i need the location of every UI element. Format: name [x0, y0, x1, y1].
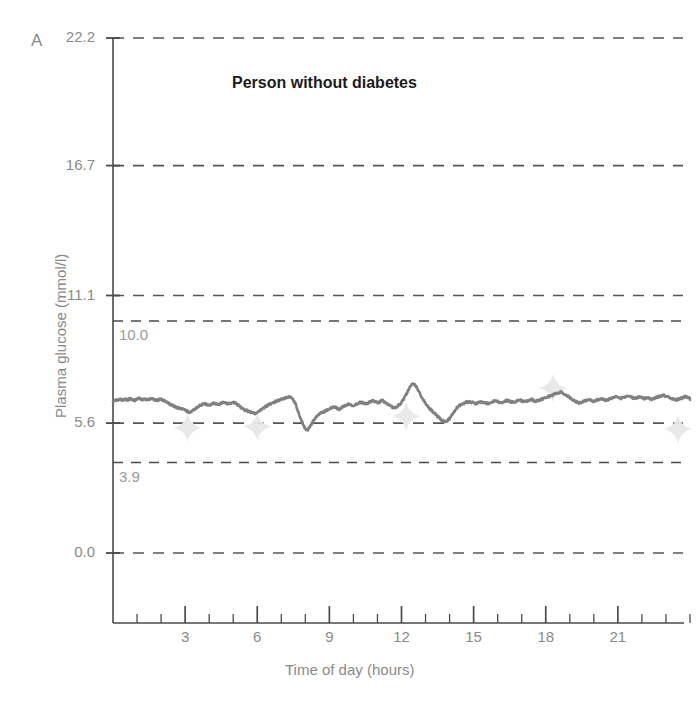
event-marker-star: [174, 414, 202, 442]
x-tick-label: 6: [237, 628, 277, 645]
x-axis-title: Time of day (hours): [285, 661, 415, 678]
reference-line-label: 3.9: [119, 468, 140, 485]
x-tick-marks-group: [137, 606, 690, 623]
event-markers-group: [174, 374, 692, 443]
x-tick-label: 21: [598, 628, 638, 645]
gridlines-group: [113, 38, 683, 553]
x-tick-label: 9: [309, 628, 349, 645]
event-marker-star: [664, 415, 692, 443]
x-tick-label: 15: [454, 628, 494, 645]
plot-canvas: [0, 0, 697, 717]
y-tick-label: 0.0: [35, 543, 95, 560]
x-tick-label: 12: [382, 628, 422, 645]
y-tick-label: 16.7: [35, 156, 95, 173]
event-marker-star: [243, 413, 271, 441]
x-tick-label: 3: [165, 628, 205, 645]
y-tick-label: 22.2: [35, 28, 95, 45]
y-tick-label: 11.1: [35, 286, 95, 303]
x-tick-label: 18: [526, 628, 566, 645]
y-tick-label: 5.6: [35, 413, 95, 430]
y-axis-title: Plasma glucose (mmol/l): [52, 254, 69, 418]
axis-lines-group: [113, 38, 684, 623]
chart-title: Person without diabetes: [232, 74, 417, 92]
figure-panel-a: A Person without diabetes Plasma glucose…: [0, 0, 697, 717]
reference-line-label: 10.0: [119, 326, 148, 343]
reference-lines-group: [113, 321, 683, 463]
